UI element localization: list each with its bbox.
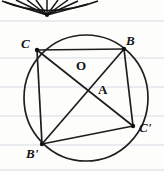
point-label-c: C — [21, 37, 30, 50]
vertex-dot-bp — [40, 142, 44, 146]
vertex-dot-c — [35, 48, 39, 52]
point-label-c-prime: C' — [139, 121, 152, 134]
point-label-a: A — [98, 83, 108, 96]
point-label-b-prime: B' — [26, 147, 39, 160]
fan-apex-dot — [45, 13, 49, 17]
geometry-figure — [0, 0, 164, 173]
vertex-dot-cp — [131, 124, 135, 128]
segment-c-b — [37, 49, 124, 50]
figure-canvas: C B O A B' C' — [0, 0, 164, 173]
point-label-b: B — [126, 34, 135, 47]
point-label-o: O — [76, 59, 86, 72]
